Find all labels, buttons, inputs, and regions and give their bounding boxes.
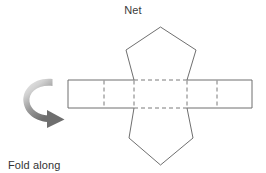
- bottom-pentagon-face: [129, 108, 193, 165]
- net-outline: [68, 27, 252, 165]
- curved-fold-arrow: [23, 79, 64, 128]
- net-diagram-screenshot: Net: [0, 0, 266, 173]
- fold-caption-line-1: Fold along: [8, 158, 79, 173]
- top-pentagon-face: [126, 27, 196, 80]
- arrow-head: [47, 110, 65, 128]
- fold-instruction-caption: Fold along the dotted line: [8, 128, 79, 173]
- fold-lines: [104, 80, 217, 108]
